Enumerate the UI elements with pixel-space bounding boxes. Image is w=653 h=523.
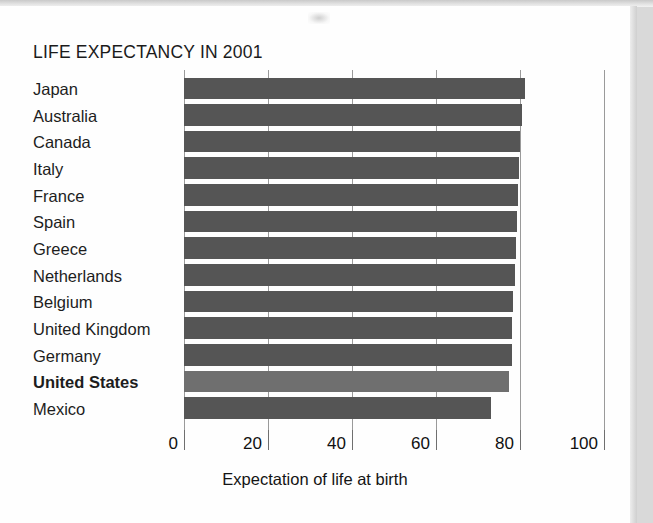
y-axis-tick-label-wrap: Australia (33, 103, 173, 130)
y-axis-label-france: France (33, 183, 84, 210)
y-axis-label-mexico: Mexico (33, 396, 85, 423)
scan-edge-shadow-right (630, 6, 637, 523)
y-axis-tick-label-wrap: Netherlands (33, 263, 173, 290)
y-axis-label-netherlands: Netherlands (33, 263, 122, 290)
y-axis-tick-label-wrap: Spain (33, 209, 173, 236)
y-axis-label-japan: Japan (33, 76, 78, 103)
y-axis-tick-label-wrap: Belgium (33, 289, 173, 316)
x-tickmark-20 (268, 430, 269, 450)
y-axis-tick-label-wrap: Italy (33, 156, 173, 183)
x-tick-label-100: 100 (544, 434, 598, 454)
x-axis-title: Expectation of life at birth (0, 470, 630, 489)
x-tickmark-0 (184, 430, 185, 450)
x-tickmark-80 (520, 430, 521, 450)
y-axis-label-canada: Canada (33, 129, 91, 156)
scanned-page: LIFE EXPECTANCY IN 2001 Expectation of l… (0, 0, 653, 523)
y-axis-tick-label-wrap: Greece (33, 236, 173, 263)
y-axis-label-italy: Italy (33, 156, 63, 183)
y-axis-tick-label-wrap: Canada (33, 129, 173, 156)
x-tick-label-20: 20 (208, 434, 262, 454)
bar-chart: LIFE EXPECTANCY IN 2001 Expectation of l… (0, 0, 630, 523)
y-axis-tick-label-wrap: United Kingdom (33, 316, 173, 343)
y-axis-label-greece: Greece (33, 236, 87, 263)
x-tick-label-60: 60 (376, 434, 430, 454)
x-tickmark-40 (352, 430, 353, 450)
y-axis-tick-label-wrap: United States (33, 369, 173, 396)
y-axis-tick-label-wrap: Japan (33, 76, 173, 103)
x-tick-label-40: 40 (292, 434, 346, 454)
y-axis-label-germany: Germany (33, 343, 101, 370)
y-axis-label-belgium: Belgium (33, 289, 93, 316)
x-tickmark-100 (604, 430, 605, 450)
y-axis-label-spain: Spain (33, 209, 75, 236)
x-tickmark-60 (436, 430, 437, 450)
x-tick-label-0: 0 (124, 434, 178, 454)
y-axis-tick-label-wrap: France (33, 183, 173, 210)
y-axis-label-australia: Australia (33, 103, 97, 130)
y-axis-label-united-states: United States (33, 369, 138, 396)
y-axis-label-united-kingdom: United Kingdom (33, 316, 150, 343)
y-axis-tick-label-wrap: Germany (33, 343, 173, 370)
y-axis-tick-label-wrap: Mexico (33, 396, 173, 423)
x-tick-label-80: 80 (460, 434, 514, 454)
